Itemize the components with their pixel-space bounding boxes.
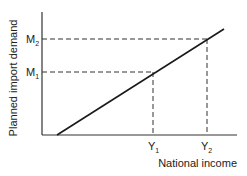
y2-label: Y2 [201,140,212,154]
m1-label: M1 [26,66,39,80]
m2-label: M2 [26,33,39,47]
import-function-line [57,29,224,135]
y1-label: Y1 [148,140,159,154]
y-axis-label: Planned import demand [7,20,19,137]
x-axis-label: National income [158,157,237,169]
import-demand-diagram: Planned import demand M2 M1 Y1 Y2 Nation… [0,0,247,176]
